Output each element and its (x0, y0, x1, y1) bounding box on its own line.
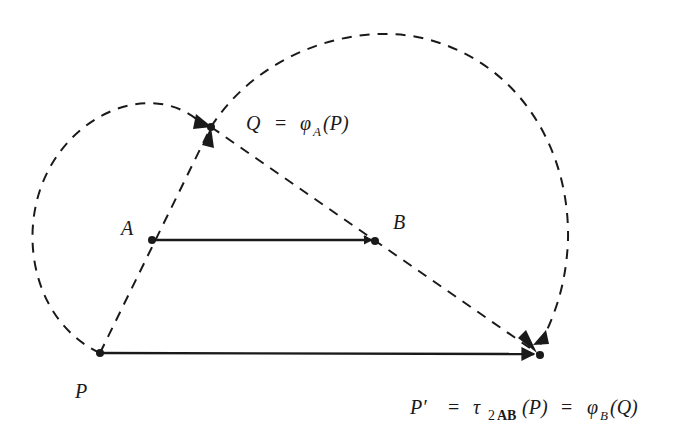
svg-text:=: = (561, 396, 572, 418)
arrow-P-to-Pprime (100, 353, 534, 354)
svg-text:Q: Q (246, 112, 261, 134)
arrowhead-line-Pprime (518, 330, 537, 353)
label-B: B (393, 211, 405, 233)
svg-text:A: A (312, 124, 321, 139)
svg-text:2: 2 (488, 408, 495, 423)
svg-text:=: = (275, 112, 286, 134)
point-P (96, 349, 104, 357)
arc-Q-to-Pprime-about-B (211, 34, 568, 345)
label-Q-equation: Q = φ A (P) (246, 112, 349, 139)
svg-text:=: = (448, 396, 459, 418)
label-A: A (119, 217, 134, 239)
point-A (148, 236, 156, 244)
arc-P-to-Q-about-A (33, 103, 201, 353)
point-Q (207, 123, 215, 131)
svg-text:AB: AB (497, 408, 516, 423)
svg-text:φ: φ (587, 396, 598, 419)
arrowhead-arc-Pprime (533, 330, 549, 345)
point-B (371, 237, 379, 245)
svg-text:B: B (600, 408, 608, 423)
reflection-translation-diagram: P A B Q = φ A (P) P′ = τ 2 AB (P) = φ B … (0, 0, 682, 431)
label-P: P (74, 380, 87, 402)
svg-text:P′: P′ (409, 396, 427, 418)
svg-text:(P): (P) (323, 112, 349, 135)
svg-text:(Q): (Q) (610, 396, 638, 419)
point-Pprime (536, 351, 544, 359)
svg-text:φ: φ (300, 112, 311, 135)
label-Pprime-equation: P′ = τ 2 AB (P) = φ B (Q) (409, 396, 638, 423)
svg-text:(P): (P) (522, 396, 548, 419)
svg-text:τ: τ (473, 396, 481, 418)
